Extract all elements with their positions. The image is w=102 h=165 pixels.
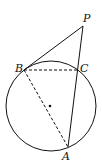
label-a: A — [61, 150, 70, 163]
circle-center-dot — [49, 105, 52, 108]
tangent-pb — [24, 26, 83, 70]
secant-pa — [68, 26, 83, 147]
chord-ba — [24, 70, 68, 147]
label-b: B — [14, 62, 23, 75]
label-c: C — [80, 62, 89, 75]
geometry-diagram: P B C A — [0, 0, 102, 165]
label-p: P — [82, 12, 91, 25]
